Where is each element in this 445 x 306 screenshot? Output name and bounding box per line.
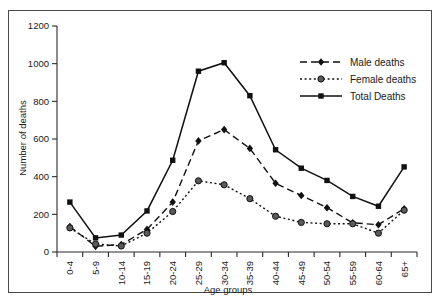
x-tick-label: 25-29 bbox=[193, 261, 204, 285]
data-point-circle-marker bbox=[118, 243, 124, 249]
y-tick-label: 0 bbox=[44, 246, 49, 257]
legend-entry-total-deaths[interactable]: Total Deaths bbox=[300, 91, 406, 102]
data-point-circle-marker bbox=[401, 207, 407, 213]
data-point-circle-marker bbox=[195, 178, 201, 184]
legend-label: Female deaths bbox=[350, 74, 416, 85]
data-series-layer bbox=[67, 60, 408, 250]
legend-label: Male deaths bbox=[350, 57, 404, 68]
y-tick-label: 800 bbox=[33, 96, 49, 107]
data-point-circle-marker bbox=[350, 221, 356, 227]
x-tick-label: 0-4 bbox=[64, 261, 75, 275]
chart-legend: Male deathsFemale deathsTotal Deaths bbox=[300, 57, 416, 102]
data-point-square-marker bbox=[324, 178, 329, 183]
x-tick-label: 15-19 bbox=[141, 261, 152, 285]
data-point-diamond-marker bbox=[375, 221, 381, 229]
data-point-circle-marker bbox=[221, 182, 227, 188]
data-point-circle-marker bbox=[272, 213, 278, 219]
x-tick-label: 10-14 bbox=[116, 261, 127, 285]
y-tick-label: 400 bbox=[33, 171, 49, 182]
x-tick-label: 60-64 bbox=[373, 261, 384, 285]
data-point-diamond-marker bbox=[324, 204, 330, 212]
y-tick-label: 1200 bbox=[28, 20, 49, 31]
line-chart: Number of deaths 020040060080010001200 0… bbox=[0, 0, 445, 306]
data-point-square-marker bbox=[119, 232, 124, 237]
data-point-circle-marker bbox=[324, 221, 330, 227]
data-point-square-marker bbox=[196, 69, 201, 74]
data-point-square-marker bbox=[299, 165, 304, 170]
x-tick-label: 5-9 bbox=[90, 261, 101, 275]
legend-label: Total Deaths bbox=[350, 91, 406, 102]
data-point-circle-marker bbox=[375, 230, 381, 236]
x-tick-label: 35-39 bbox=[244, 261, 255, 285]
series-line bbox=[70, 63, 404, 238]
series-line bbox=[70, 130, 404, 247]
x-tick-label: 65+ bbox=[399, 261, 410, 278]
data-point-circle-marker bbox=[298, 219, 304, 225]
x-tick-label: 30-34 bbox=[219, 261, 230, 285]
data-point-square-marker bbox=[67, 199, 72, 204]
data-point-square-marker bbox=[93, 235, 98, 240]
x-tick-label: 45-49 bbox=[296, 261, 307, 285]
data-point-square-marker bbox=[221, 60, 226, 65]
legend-entry-female-deaths[interactable]: Female deaths bbox=[300, 74, 416, 85]
legend-entry-male-deaths[interactable]: Male deaths bbox=[300, 57, 404, 68]
data-point-square-marker bbox=[247, 93, 252, 98]
y-tick-label: 200 bbox=[33, 209, 49, 220]
chart-figure: Number of deaths 020040060080010001200 0… bbox=[0, 0, 445, 306]
y-tick-label: 1000 bbox=[28, 58, 49, 69]
data-point-square-marker bbox=[273, 147, 278, 152]
y-axis-ticks: 020040060080010001200 bbox=[28, 20, 57, 257]
data-point-diamond-marker bbox=[318, 58, 324, 66]
series-male-deaths bbox=[67, 126, 408, 250]
data-point-circle-marker bbox=[92, 241, 98, 247]
data-point-square-marker bbox=[144, 208, 149, 213]
data-point-circle-marker bbox=[170, 208, 176, 214]
data-point-circle-marker bbox=[247, 196, 253, 202]
data-point-circle-marker bbox=[144, 230, 150, 236]
x-tick-label: 50-54 bbox=[321, 261, 332, 285]
data-point-circle-marker bbox=[67, 225, 73, 231]
data-point-diamond-marker bbox=[298, 192, 304, 200]
x-tick-label: 20-24 bbox=[167, 261, 178, 285]
data-point-square-marker bbox=[376, 204, 381, 209]
data-point-square-marker bbox=[350, 194, 355, 199]
data-point-diamond-marker bbox=[221, 126, 227, 134]
x-tick-label: 40-44 bbox=[270, 261, 281, 285]
y-axis-title: Number of deaths bbox=[17, 100, 28, 176]
series-total-deaths bbox=[67, 60, 407, 241]
data-point-circle-marker bbox=[318, 76, 324, 82]
data-point-square-marker bbox=[170, 158, 175, 163]
data-point-diamond-marker bbox=[195, 137, 201, 145]
data-point-square-marker bbox=[401, 164, 406, 169]
series-female-deaths bbox=[67, 178, 407, 249]
y-tick-label: 600 bbox=[33, 133, 49, 144]
x-axis-ticks: 0-45-910-1415-1920-2425-2930-3435-3940-4… bbox=[57, 252, 417, 285]
data-point-square-marker bbox=[318, 93, 323, 98]
x-axis-title: Age groups bbox=[204, 284, 253, 295]
x-tick-label: 55-59 bbox=[347, 261, 358, 285]
